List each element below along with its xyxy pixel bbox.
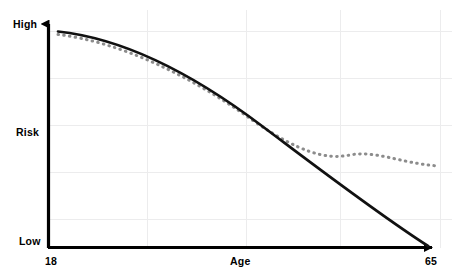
chart-canvas [0, 0, 461, 277]
x-axis-max-tick-label: 65 [425, 255, 437, 267]
risk-age-chart: High Risk Low 18 Age 65 [0, 0, 461, 277]
x-axis-title: Age [230, 255, 250, 267]
y-axis-high-label: High [13, 18, 37, 30]
plot-background [0, 0, 461, 277]
x-axis-min-tick-label: 18 [45, 255, 57, 267]
y-axis-low-label: Low [19, 235, 41, 247]
y-axis-title: Risk [16, 126, 39, 138]
